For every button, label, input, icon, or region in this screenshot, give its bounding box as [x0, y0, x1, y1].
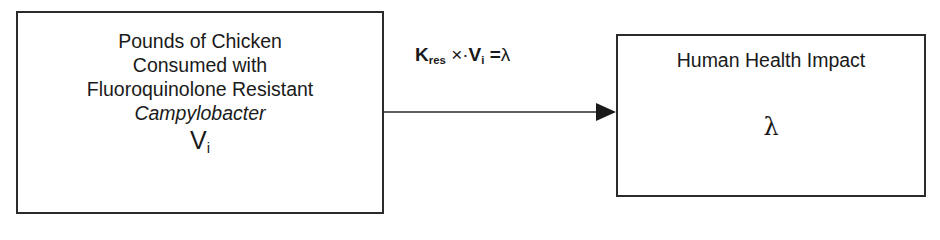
- formula-operator: ×·: [451, 44, 468, 65]
- arrow-formula: Kres ×·Vi =λ: [415, 44, 510, 66]
- formula-v-subscript: i: [481, 54, 484, 66]
- formula-k: K: [415, 44, 429, 65]
- target-box-human-health-impact: Human Health Impact λ: [616, 34, 926, 197]
- target-variable: λ: [618, 113, 924, 141]
- arrowhead-icon: [596, 103, 616, 121]
- formula-v: V: [469, 44, 482, 65]
- formula-equals: =: [490, 44, 501, 65]
- target-box-title: Human Health Impact: [618, 49, 924, 72]
- formula-result: λ: [501, 44, 511, 65]
- formula-k-subscript: res: [429, 54, 446, 66]
